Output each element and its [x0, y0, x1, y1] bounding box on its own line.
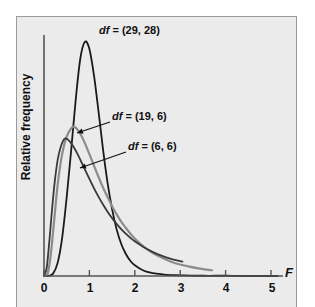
df-args-1: = (29, 28) — [109, 24, 159, 36]
df-italic-3: df — [128, 140, 138, 152]
annotation-arrows — [77, 122, 126, 169]
label-19-6: df = (19, 6) — [112, 110, 167, 122]
y-axis-label: Relative frequency — [19, 57, 33, 197]
label-29-28: df = (29, 28) — [99, 24, 160, 36]
figure-container: Relative frequency 0 1 2 3 4 5 F df = (2… — [0, 0, 315, 307]
chart-canvas — [0, 0, 315, 307]
axis-group — [44, 35, 283, 276]
df-italic-1: df — [99, 24, 109, 36]
df-args-2: = (19, 6) — [122, 110, 166, 122]
x-axis-label: F — [285, 265, 293, 280]
label-6-6: df = (6, 6) — [128, 140, 177, 152]
x-tick-5: 5 — [262, 281, 282, 295]
curve-group — [44, 41, 278, 276]
x-tick-0: 0 — [34, 281, 54, 295]
x-tick-3: 3 — [171, 281, 191, 295]
df-args-3: = (6, 6) — [138, 140, 176, 152]
x-tick-2: 2 — [125, 281, 145, 295]
x-tick-4: 4 — [216, 281, 236, 295]
x-tick-1: 1 — [80, 281, 100, 295]
df-italic-2: df — [112, 110, 122, 122]
